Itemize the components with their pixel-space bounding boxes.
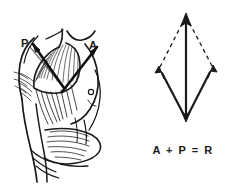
anatomy-panel: P A bbox=[0, 0, 122, 185]
vector-equation: A + P = R bbox=[122, 144, 244, 156]
anatomy-vector-p-head bbox=[33, 44, 40, 52]
vector-panel: R P A bbox=[122, 0, 244, 185]
vector-p-head bbox=[155, 66, 164, 79]
vector-a-head bbox=[208, 65, 217, 78]
anatomy-label-p: P bbox=[21, 38, 28, 49]
anatomy-label-a: A bbox=[89, 40, 97, 51]
force-vector-figure: P A R bbox=[0, 0, 244, 185]
